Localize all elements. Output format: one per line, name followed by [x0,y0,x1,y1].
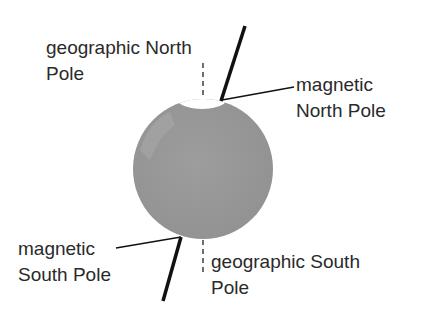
label-line: geographic North [46,37,192,59]
magnetic-axis-north [221,26,245,101]
label-magnetic-south: magnetic South Pole [18,238,111,286]
label-line: geographic South [211,251,360,273]
label-line: magnetic [296,74,386,96]
leader-magnetic-south [116,237,181,248]
label-line: South Pole [18,264,111,286]
label-line: Pole [211,277,360,299]
label-line: Pole [46,63,192,85]
leader-magnetic-north [222,87,294,100]
globe [133,99,273,239]
magnetic-axis-south [163,237,181,301]
label-line: North Pole [296,100,386,122]
label-geographic-south: geographic South Pole [211,251,360,299]
label-line: magnetic [18,238,111,260]
label-geographic-north: geographic North Pole [46,37,192,85]
label-magnetic-north: magnetic North Pole [296,74,386,122]
